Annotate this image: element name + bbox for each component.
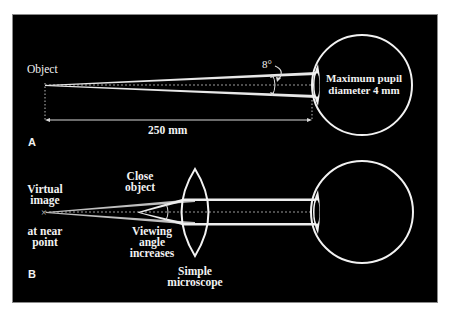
virtual-lower-ray <box>46 212 195 225</box>
panel-label-b: B <box>28 268 36 280</box>
object-lower-ray <box>138 212 182 225</box>
angle-label: 8° <box>262 59 272 70</box>
object-label: Object <box>27 64 58 75</box>
panel-label-a: A <box>28 136 36 148</box>
angle-pointer <box>275 66 281 79</box>
virtual-image-marker: × <box>41 207 47 218</box>
object-upper-ray <box>138 199 182 213</box>
parallel-lower-ray <box>182 223 316 226</box>
panel-b-graphics: × <box>41 161 413 263</box>
parallel-upper-ray <box>182 199 316 202</box>
pupil-label: Maximum pupil diameter 4 mm <box>322 72 406 96</box>
distance-label: 250 mm <box>148 125 187 136</box>
eye-b <box>311 161 413 263</box>
close-object-label: Close object <box>115 171 165 193</box>
pupil-b <box>315 200 320 224</box>
virtual-image-label: Virtual image <box>22 184 68 206</box>
virtual-upper-ray <box>46 199 195 213</box>
near-point-label: at near point <box>22 226 68 248</box>
viewing-angle-label: Viewing angle increases <box>126 226 178 259</box>
pupil-a <box>315 73 320 97</box>
microscope-label: Simple microscope <box>160 266 230 288</box>
figure: × Object 8° Maximum pupil diameter 4 mm … <box>0 0 452 317</box>
dimension-arrow-right <box>307 118 312 122</box>
dimension-arrow-left <box>45 118 50 122</box>
